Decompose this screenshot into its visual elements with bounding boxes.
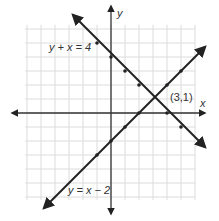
line2-label: y = x − 2: [67, 184, 110, 196]
line1-label: y + x = 4: [48, 41, 91, 53]
y-axis-label: y: [116, 7, 124, 19]
intersection-label: (3,1): [170, 91, 193, 103]
x-axis-label: x: [199, 97, 206, 109]
coordinate-graph: x y y + x = 4 y = x − 2 (3,1): [0, 0, 219, 221]
